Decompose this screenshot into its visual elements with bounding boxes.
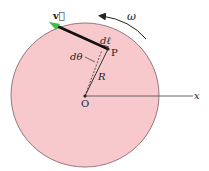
point-p-label: P xyxy=(111,47,118,58)
origin-label: O xyxy=(81,98,89,109)
velocity-label: v⃗ xyxy=(52,10,65,21)
omega-label: ω xyxy=(127,10,136,23)
rotation-diagram: v⃗ ω dℓ P dθ R O x xyxy=(0,0,209,171)
dtheta-label: dθ xyxy=(70,51,82,62)
dl-label: dℓ xyxy=(100,35,111,46)
radius-label: R xyxy=(97,71,106,82)
point-p xyxy=(106,47,109,50)
x-axis-label: x xyxy=(194,90,200,101)
